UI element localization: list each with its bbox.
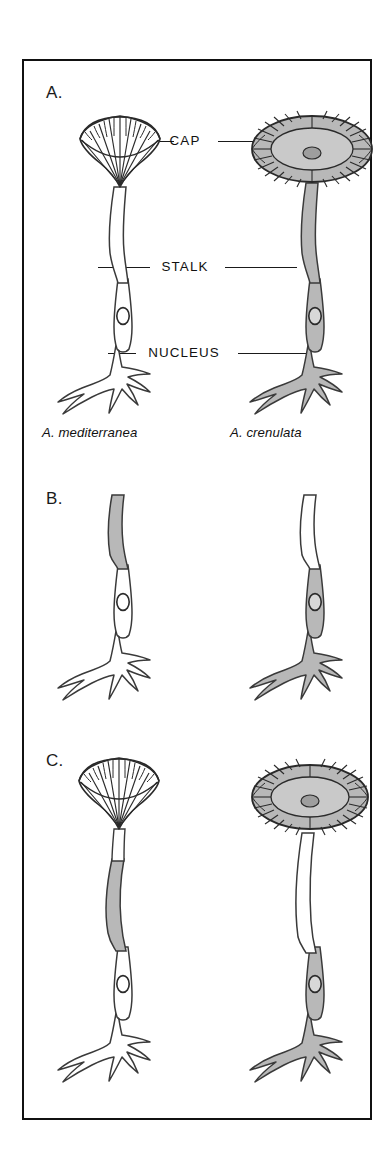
species-label-right-a: A. crenulata [230, 425, 302, 440]
organism-b-gray-stalk-white-base [54, 491, 194, 711]
nucleus-oval [309, 976, 321, 993]
figure-border: A. CAP STALK NUCLEUS [22, 59, 372, 1120]
organism-c-cup-cap-gray-stalk [54, 751, 194, 1096]
panel-label-a: A. [46, 83, 63, 103]
organism-c-disc-cap-white-stalk [236, 751, 384, 1096]
nucleus-oval [117, 976, 129, 993]
nucleus-oval [309, 594, 321, 611]
organism-a-crenulata [236, 109, 384, 429]
nucleus-oval [117, 308, 129, 325]
cap-disc-crenulata [252, 111, 372, 187]
species-label-left-a: A. mediterranea [42, 425, 137, 440]
nucleus-oval [309, 308, 321, 325]
organism-b-white-stalk-gray-base [236, 491, 384, 711]
nucleus-oval [117, 594, 129, 611]
cap-cup-mediterranea [80, 116, 160, 187]
cap-disc-regenerated [252, 759, 368, 835]
cap-cup-regenerated [79, 758, 159, 829]
organism-a-mediterranea [54, 109, 194, 429]
